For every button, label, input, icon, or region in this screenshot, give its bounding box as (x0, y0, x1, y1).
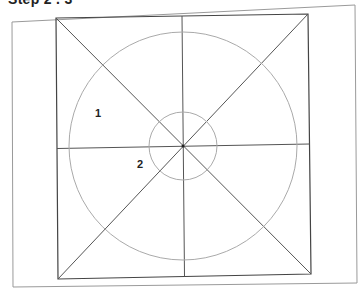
label-2: 2 (137, 158, 143, 170)
geometry-diagram: 1 2 (0, 0, 363, 290)
label-1: 1 (95, 107, 101, 119)
center-point (182, 145, 185, 148)
